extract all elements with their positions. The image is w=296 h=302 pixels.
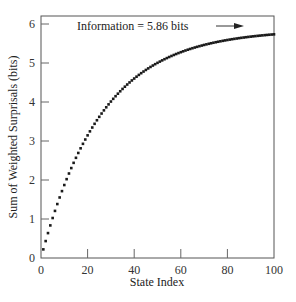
- data-point: [131, 79, 134, 82]
- y-tick-label: 3: [29, 134, 35, 148]
- data-point: [163, 58, 166, 61]
- data-point: [44, 240, 47, 243]
- y-axis-label: Sum of Weighted Surprisals (bits): [6, 56, 20, 219]
- x-axis-ticks: 020406080100: [38, 249, 283, 277]
- data-point: [107, 103, 110, 106]
- data-point: [51, 217, 54, 220]
- data-point: [200, 44, 203, 47]
- data-point: [117, 92, 120, 95]
- data-point: [84, 138, 87, 141]
- data-point: [145, 69, 148, 72]
- data-point: [212, 41, 215, 44]
- data-point: [173, 54, 176, 57]
- data-point: [56, 203, 59, 206]
- data-point: [254, 35, 257, 38]
- data-point: [61, 190, 64, 193]
- data-point: [82, 143, 85, 146]
- data-point: [170, 55, 173, 58]
- data-point: [93, 123, 96, 126]
- data-point: [270, 33, 273, 36]
- plot-frame: [41, 16, 274, 258]
- annotation: Information = 5.86 bits: [77, 19, 244, 33]
- chart: 0123456 020406080100 State Index Sum of …: [0, 0, 296, 302]
- data-point: [231, 38, 234, 41]
- data-point: [96, 119, 99, 122]
- data-point: [79, 147, 82, 150]
- data-point: [177, 52, 180, 55]
- data-point: [266, 34, 269, 37]
- x-tick-label: 0: [38, 263, 44, 277]
- data-point: [238, 37, 241, 40]
- data-point: [221, 40, 224, 43]
- data-point: [77, 152, 80, 155]
- data-point: [261, 34, 264, 37]
- data-point: [268, 33, 271, 36]
- data-point: [159, 60, 162, 63]
- data-point: [121, 88, 124, 91]
- data-point: [114, 95, 117, 98]
- data-point: [256, 35, 259, 38]
- data-point: [226, 39, 229, 42]
- x-tick-label: 80: [221, 263, 233, 277]
- data-point: [259, 34, 262, 37]
- y-tick-label: 0: [29, 251, 35, 265]
- annotation-text: Information = 5.86 bits: [77, 19, 189, 33]
- data-point: [180, 51, 183, 54]
- data-point: [240, 37, 243, 40]
- data-point: [228, 38, 231, 41]
- data-point: [135, 75, 138, 78]
- data-point: [142, 70, 145, 73]
- data-point: [140, 72, 143, 75]
- y-tick-label: 6: [29, 17, 35, 31]
- data-point: [63, 184, 66, 187]
- data-point: [110, 100, 113, 103]
- data-point: [189, 48, 192, 51]
- y-tick-label: 2: [29, 173, 35, 187]
- data-point: [105, 106, 108, 109]
- data-point: [138, 74, 141, 77]
- y-tick-label: 5: [29, 56, 35, 70]
- data-point: [42, 248, 45, 251]
- data-point: [245, 36, 248, 39]
- data-point: [166, 57, 169, 60]
- data-point: [75, 157, 78, 160]
- data-point: [86, 134, 89, 137]
- data-point: [224, 39, 227, 42]
- data-point: [175, 53, 178, 56]
- data-point: [128, 81, 131, 84]
- data-points: [42, 33, 275, 251]
- data-point: [68, 172, 71, 175]
- arrow-head-icon: [234, 23, 244, 29]
- data-point: [217, 40, 220, 43]
- data-point: [49, 224, 52, 227]
- data-point: [112, 98, 115, 101]
- data-point: [184, 49, 187, 52]
- data-point: [161, 59, 164, 62]
- data-point: [98, 116, 101, 119]
- x-tick-label: 100: [265, 263, 283, 277]
- data-point: [219, 40, 222, 43]
- data-point: [168, 56, 171, 59]
- data-point: [133, 77, 136, 80]
- x-tick-label: 20: [82, 263, 94, 277]
- data-point: [205, 43, 208, 46]
- data-point: [91, 126, 94, 129]
- data-point: [214, 41, 217, 44]
- data-point: [210, 42, 213, 45]
- data-point: [198, 45, 201, 48]
- data-point: [186, 48, 189, 51]
- data-point: [124, 85, 127, 88]
- data-point: [242, 36, 245, 39]
- data-point: [235, 37, 238, 40]
- data-point: [207, 42, 210, 45]
- data-point: [65, 178, 68, 181]
- data-point: [70, 167, 73, 170]
- data-point: [58, 196, 61, 199]
- y-axis-ticks: 0123456: [29, 17, 49, 265]
- data-point: [252, 35, 255, 38]
- data-point: [191, 47, 194, 50]
- data-point: [247, 36, 250, 39]
- data-point: [103, 109, 106, 112]
- x-axis-label: State Index: [130, 275, 184, 289]
- data-point: [89, 130, 92, 133]
